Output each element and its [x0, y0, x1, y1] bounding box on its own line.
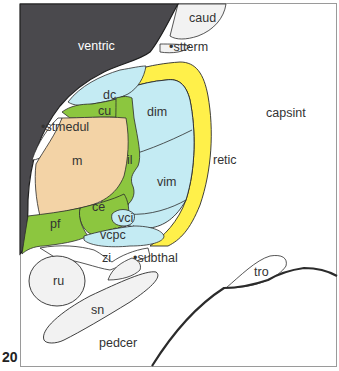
- brain-atlas-section: ventric caud •stterm dc cu dim capsint •…: [0, 0, 339, 371]
- label-subthal: •subthal: [133, 251, 178, 265]
- label-tro: tro: [254, 265, 269, 279]
- plate-number: 20: [2, 349, 18, 365]
- label-ventric: ventric: [78, 39, 115, 53]
- label-vcpc: vcpc: [100, 228, 126, 242]
- label-capsint: capsint: [266, 106, 306, 120]
- label-dim: dim: [147, 105, 167, 119]
- label-dc: dc: [103, 88, 116, 102]
- label-caud: caud: [189, 11, 216, 25]
- label-pedcer: pedcer: [99, 336, 137, 350]
- label-ru: ru: [53, 274, 64, 288]
- label-vci: vci: [118, 211, 133, 225]
- label-stterm: •stterm: [169, 40, 208, 54]
- label-sn: sn: [91, 303, 104, 317]
- label-pf: pf: [50, 217, 61, 231]
- label-m: m: [72, 154, 82, 168]
- label-stmedul: •stmedul: [41, 120, 89, 134]
- label-cu: cu: [98, 104, 111, 118]
- label-il: il: [127, 153, 133, 167]
- label-vim: vim: [157, 175, 176, 189]
- label-zi: zi: [102, 251, 111, 265]
- label-ce: ce: [92, 200, 105, 214]
- label-retic: retic: [213, 153, 237, 167]
